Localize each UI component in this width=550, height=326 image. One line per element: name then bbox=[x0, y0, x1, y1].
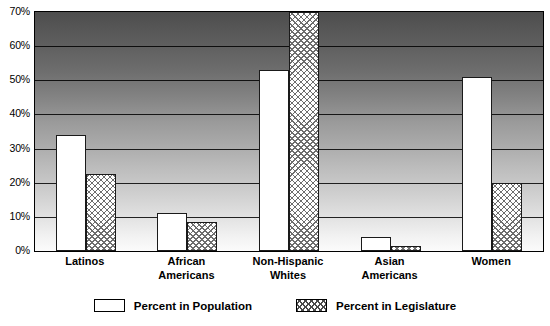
y-tick-label: 20% bbox=[10, 176, 30, 188]
bar-population bbox=[462, 77, 492, 251]
bar-population bbox=[157, 213, 187, 251]
bar-legislature bbox=[289, 12, 319, 251]
bars-layer bbox=[35, 12, 543, 251]
y-tick-label: 0% bbox=[15, 244, 30, 256]
bar-legislature bbox=[391, 246, 421, 251]
y-tick-label: 70% bbox=[10, 5, 30, 17]
x-tick-label: Women bbox=[440, 254, 542, 268]
legend-item: Percent in Population bbox=[94, 299, 252, 312]
bar-legislature bbox=[492, 183, 522, 251]
x-tick-label: Non-Hispanic Whites bbox=[237, 254, 339, 282]
x-tick-label: Latinos bbox=[34, 254, 136, 268]
plot-area bbox=[34, 11, 544, 252]
y-tick-label: 10% bbox=[10, 210, 30, 222]
y-tick-label: 40% bbox=[10, 107, 30, 119]
x-axis: LatinosAfrican AmericansNon-Hispanic Whi… bbox=[34, 254, 542, 296]
y-tick-label: 50% bbox=[10, 73, 30, 85]
crosshatch-swatch bbox=[296, 299, 327, 312]
white-swatch bbox=[94, 299, 125, 312]
bar-chart: 70%60%50%40%30%20%10%0% LatinosAfrican A… bbox=[0, 0, 550, 326]
y-tick-label: 60% bbox=[10, 39, 30, 51]
x-tick-label: Asian Americans bbox=[339, 254, 441, 282]
chart-legend: Percent in PopulationPercent in Legislat… bbox=[0, 299, 550, 312]
legend-label: Percent in Legislature bbox=[336, 300, 456, 312]
y-tick-label: 30% bbox=[10, 142, 30, 154]
bar-legislature bbox=[187, 222, 217, 251]
legend-item: Percent in Legislature bbox=[296, 299, 456, 312]
y-axis: 70%60%50%40%30%20%10%0% bbox=[0, 0, 34, 256]
bar-population bbox=[259, 70, 289, 251]
bar-legislature bbox=[86, 174, 116, 251]
bar-population bbox=[56, 135, 86, 251]
bar-population bbox=[361, 237, 391, 251]
x-tick-label: African Americans bbox=[136, 254, 238, 282]
legend-label: Percent in Population bbox=[134, 300, 252, 312]
